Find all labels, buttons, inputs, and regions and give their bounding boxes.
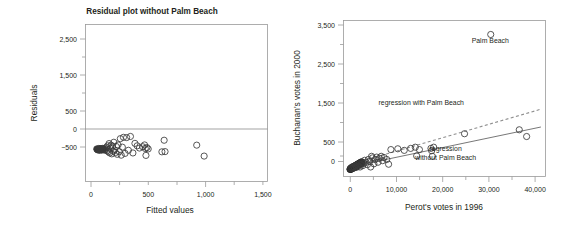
y-tick-label: 1,500: [59, 72, 77, 79]
y-tick-label: 500: [65, 108, 77, 115]
scatter-point: [118, 152, 124, 158]
x-tick-label: 500: [142, 191, 154, 198]
scatter-point: [401, 147, 407, 153]
scatter-point: [130, 150, 136, 156]
scatter-point: [201, 153, 207, 159]
y-tick-label: 1,500: [317, 100, 335, 107]
y-axis-title: Buchanan's votes in 2000: [292, 50, 302, 146]
scatter-points-group: [94, 133, 208, 159]
x-axis-title: Fitted values: [146, 205, 193, 215]
x-tick-label: 1,500: [254, 191, 272, 198]
x-axis-ticks: [91, 182, 263, 188]
x-axis-title: Perot's votes in 1996: [405, 202, 483, 212]
y-tick-label: 2,500: [59, 36, 77, 43]
x-tick-label: 10,000: [386, 186, 408, 193]
scatter-point: [127, 133, 133, 139]
y-tick-label: 500: [323, 139, 335, 146]
x-tick-label: 1,000: [197, 191, 215, 198]
y-axis-ticks: [80, 39, 86, 147]
regression-without-palm-beach-annotation-line2: without Palm Beach: [414, 154, 476, 161]
y-tick-label: −500: [61, 144, 77, 151]
buchanan-perot-panel: 3,500 2,500 1,500 500 0 Buchanan's votes…: [284, 0, 568, 231]
x-tick-label: 40,000: [524, 186, 546, 193]
scatter-point: [524, 133, 530, 139]
y-axis-ticks: [338, 25, 344, 162]
regression-without-palm-beach-annotation-line1: regression: [430, 145, 462, 153]
x-tick-label: 30,000: [478, 186, 500, 193]
residual-plot-panel: Residual plot without Palm Beach 2,500 1…: [0, 0, 284, 231]
y-tick-label: 2,500: [317, 61, 335, 68]
x-tick-label: 0: [89, 191, 93, 198]
x-axis-ticks: [350, 177, 535, 183]
figure-container: Residual plot without Palm Beach 2,500 1…: [0, 0, 568, 231]
y-tick-label: 3,500: [317, 22, 335, 29]
x-tick-label: 0: [348, 186, 352, 193]
buchanan-perot-svg: 3,500 2,500 1,500 500 0 Buchanan's votes…: [284, 0, 568, 231]
scatter-point: [143, 152, 149, 158]
scatter-point: [388, 146, 394, 152]
x-tick-label: 20,000: [432, 186, 454, 193]
palm-beach-annotation: Palm Beach: [472, 37, 509, 44]
plot-frame: [86, 25, 268, 182]
y-tick-label: 0: [73, 126, 77, 133]
regression-with-palm-beach-annotation: regression with Palm Beach: [379, 99, 465, 107]
scatter-point: [194, 142, 200, 148]
y-axis-title: Residuals: [29, 85, 39, 122]
page-title: Residual plot without Palm Beach: [86, 7, 217, 16]
residual-plot-svg: Residual plot without Palm Beach 2,500 1…: [0, 0, 284, 231]
scatter-point: [161, 137, 167, 143]
y-tick-label: 0: [331, 158, 335, 165]
